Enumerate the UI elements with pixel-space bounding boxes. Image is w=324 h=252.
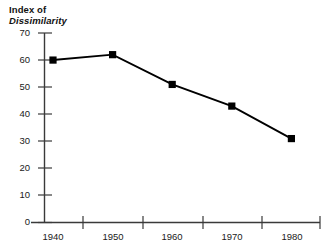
data-point-1970 — [228, 102, 235, 109]
y-tick-label-0: 0 — [8, 217, 30, 227]
data-point-1980 — [288, 135, 295, 142]
y-tick-label-70: 70 — [8, 28, 30, 38]
y-tick-label-40: 40 — [8, 109, 30, 119]
data-point-1940 — [49, 56, 56, 63]
x-tick-label-1950: 1950 — [93, 232, 133, 242]
y-tick-label-30: 30 — [8, 136, 30, 146]
plot-area — [0, 0, 324, 252]
x-tick-label-1970: 1970 — [212, 232, 252, 242]
data-point-1950 — [109, 51, 116, 58]
y-tick-label-50: 50 — [8, 82, 30, 92]
y-tick-label-20: 20 — [8, 163, 30, 173]
x-tick-label-1980: 1980 — [272, 232, 312, 242]
y-tick-label-60: 60 — [8, 55, 30, 65]
data-series-markers — [49, 51, 295, 142]
x-tick-label-1960: 1960 — [152, 232, 192, 242]
y-tick-label-10: 10 — [8, 190, 30, 200]
data-series-line — [53, 55, 291, 139]
x-tick-label-1940: 1940 — [33, 232, 73, 242]
chart-figure: Index of Dissimilarity — [0, 0, 324, 252]
data-point-1960 — [169, 81, 176, 88]
